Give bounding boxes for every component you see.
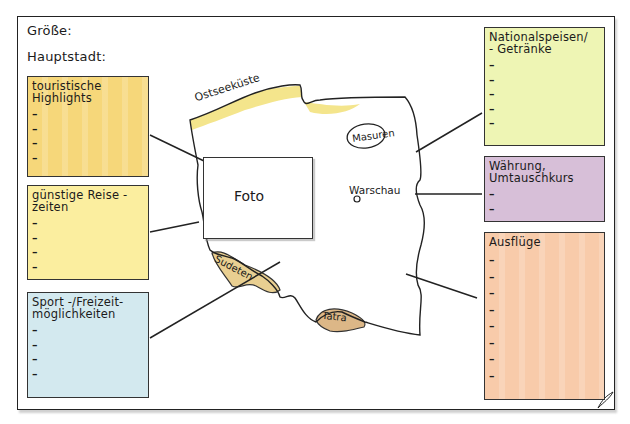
box-title: Ausflüge	[489, 236, 600, 248]
bullet: –	[32, 353, 144, 368]
bullet: –	[489, 103, 600, 118]
capital-city-label: Warschau	[349, 184, 400, 196]
bullet: –	[32, 232, 144, 247]
bullet: –	[32, 261, 144, 276]
box-title: Währung, Umtauschkurs	[489, 160, 600, 184]
photo-placeholder: Foto	[203, 157, 313, 239]
photo-label: Foto	[234, 188, 264, 204]
bullet: –	[489, 254, 600, 271]
box-sport-leisure: Sport -/Freizeit- möglichkeiten – – – –	[27, 292, 149, 398]
bullet: –	[489, 320, 600, 337]
bullet: –	[32, 368, 144, 383]
bullet: –	[489, 353, 600, 370]
bullet: –	[489, 287, 600, 304]
bullet: –	[489, 117, 600, 132]
box-currency: Währung, Umtauschkurs – –	[484, 156, 605, 222]
connector-sport	[150, 262, 280, 338]
box-excursions: Ausflüge – – – – – – – –	[484, 232, 605, 400]
box-title: Nationalspeisen/ - Getränke	[489, 31, 600, 55]
bullet: –	[489, 74, 600, 89]
bullet: –	[32, 324, 144, 339]
capital-marker-icon	[354, 196, 360, 202]
box-title: touristische Highlights	[32, 80, 144, 104]
bullet: –	[32, 108, 144, 123]
bullet: –	[32, 137, 144, 152]
bullet: –	[32, 123, 144, 138]
bullet: –	[489, 188, 600, 203]
box-national-food: Nationalspeisen/ - Getränke – – – – –	[484, 27, 605, 146]
bullet: –	[32, 152, 144, 167]
connector-food	[416, 113, 482, 152]
bullet: –	[32, 339, 144, 354]
bullet: –	[489, 337, 600, 354]
bullet: –	[489, 304, 600, 321]
bullet: –	[489, 370, 600, 387]
bullet: –	[32, 217, 144, 232]
bullet: –	[489, 88, 600, 103]
box-travel-times: günstige Reise - zeiten – – – –	[27, 185, 149, 280]
connector-travel-times	[150, 222, 199, 232]
bullet: –	[489, 59, 600, 74]
connector-highlights	[150, 135, 204, 161]
bullet: –	[489, 271, 600, 288]
box-tourist-highlights: touristische Highlights – – – –	[27, 76, 149, 177]
bullet: –	[32, 246, 144, 261]
bullet: –	[489, 203, 600, 218]
connector-excursions	[406, 274, 477, 298]
box-title: Sport -/Freizeit- möglichkeiten	[32, 296, 144, 320]
box-title: günstige Reise - zeiten	[32, 189, 144, 213]
